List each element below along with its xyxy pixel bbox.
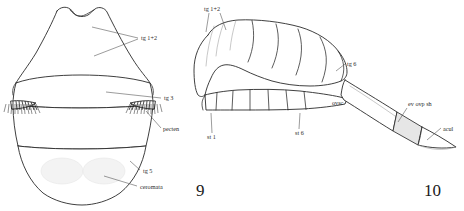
- tergite-4-outline: [13, 105, 153, 149]
- figure-number-9: 9: [196, 181, 205, 200]
- leader-st-6: [299, 113, 300, 129]
- leader-st-1: [211, 113, 212, 133]
- label-st-1: st 1: [207, 133, 216, 140]
- label-tg-1-2-dorsal: tg 1+2: [141, 34, 157, 41]
- label-st-6: st 6: [295, 129, 304, 136]
- label-tg-1-2-lateral: tg 1+2: [204, 5, 220, 12]
- figure-10-lateral: tg 1+2 tg 6 ovsc st 1 st 6 ev ovp sh acu…: [194, 5, 456, 200]
- label-ev-ovp-sh: ev ovp sh: [408, 100, 433, 107]
- sternal-series-outline: [205, 89, 347, 110]
- figure-number-10: 10: [424, 181, 441, 200]
- ceromata-left-patch: [41, 158, 83, 184]
- plate-drawing: tg 1+2 tg 3 pecten tg 5 ceromata 9: [0, 0, 464, 211]
- tergal-mass-outline: [194, 20, 347, 97]
- sternite-1-flange: [202, 96, 205, 110]
- leader-tg-1-2-lateral-left: [206, 13, 209, 32]
- tergite-1-2-outline: [16, 7, 150, 84]
- illustration-plate: tg 1+2 tg 3 pecten tg 5 ceromata 9: [0, 0, 464, 211]
- label-ovsc: ovsc: [332, 99, 344, 106]
- label-acul: acul: [443, 125, 454, 132]
- ceromata-right-patch: [83, 158, 125, 184]
- label-pecten: pecten: [163, 125, 179, 132]
- label-ceromata: ceromata: [140, 183, 163, 190]
- everted-ovipositor-sheath: [393, 112, 422, 145]
- label-tg-5: tg 5: [143, 167, 152, 174]
- figure-9-dorsal: tg 1+2 tg 3 pecten tg 5 ceromata 9: [4, 7, 205, 205]
- ovipositor-sheath-base: [341, 80, 397, 131]
- label-tg-6: tg 6: [347, 60, 356, 67]
- label-tg-3: tg 3: [164, 94, 173, 101]
